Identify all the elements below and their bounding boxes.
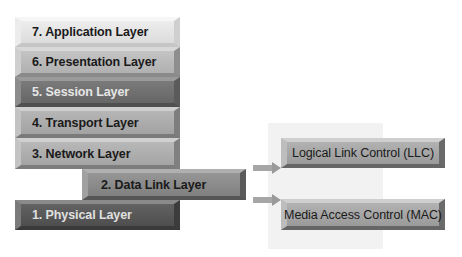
layer-label: 2. Data Link Layer <box>88 178 206 192</box>
sublayer-mac: Media Access Control (MAC) <box>281 199 445 230</box>
layer-7-application: 7. Application Layer <box>15 17 180 47</box>
sublayer-llc: Logical Link Control (LLC) <box>281 138 445 168</box>
sublayer-label: Media Access Control (MAC) <box>284 208 442 222</box>
layer-2-data-link: 2. Data Link Layer <box>82 169 246 200</box>
layer-label: 3. Network Layer <box>21 147 130 161</box>
layer-label: 1. Physical Layer <box>21 208 132 222</box>
layer-label: 5. Session Layer <box>21 85 129 99</box>
layer-6-presentation: 6. Presentation Layer <box>15 47 180 77</box>
arrow-right-icon <box>253 162 283 174</box>
layer-1-physical: 1. Physical Layer <box>15 200 180 230</box>
layer-label: 4. Transport Layer <box>21 116 139 130</box>
arrow-right-icon <box>253 194 283 206</box>
layer-4-transport: 4. Transport Layer <box>15 107 180 138</box>
layer-label: 7. Application Layer <box>21 25 148 39</box>
layer-label: 6. Presentation Layer <box>21 55 156 69</box>
sublayer-label: Logical Link Control (LLC) <box>292 146 434 160</box>
layer-5-session: 5. Session Layer <box>15 77 180 107</box>
layer-3-network: 3. Network Layer <box>15 138 180 169</box>
